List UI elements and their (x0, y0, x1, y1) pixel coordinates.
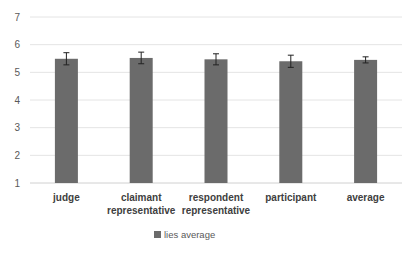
bars (55, 52, 377, 183)
x-tick-label: respondent (189, 192, 244, 203)
y-tick-label: 2 (14, 150, 20, 161)
bar (130, 58, 153, 183)
legend-swatch (154, 231, 161, 238)
y-axis: 1234567 (14, 12, 20, 189)
x-axis: judgeclaimantrepresentativerespondentrep… (52, 192, 385, 216)
y-tick-label: 3 (14, 122, 20, 133)
bar (279, 61, 302, 183)
y-tick-label: 1 (14, 178, 20, 189)
x-tick-label: judge (52, 192, 80, 203)
bar (354, 60, 377, 183)
x-tick-label: participant (265, 192, 317, 203)
bar (205, 59, 228, 183)
y-tick-label: 6 (14, 39, 20, 50)
x-tick-label: representative (107, 205, 176, 216)
y-tick-label: 7 (14, 12, 20, 23)
bar (55, 59, 78, 183)
legend-label: lies average (164, 229, 215, 240)
y-tick-label: 4 (14, 95, 20, 106)
x-tick-label: representative (182, 205, 251, 216)
x-tick-label: claimant (121, 192, 162, 203)
x-tick-label: average (347, 192, 385, 203)
legend: lies average (154, 229, 215, 240)
bar-chart: 1234567 judgeclaimantrepresentativerespo… (0, 0, 412, 257)
y-tick-label: 5 (14, 67, 20, 78)
